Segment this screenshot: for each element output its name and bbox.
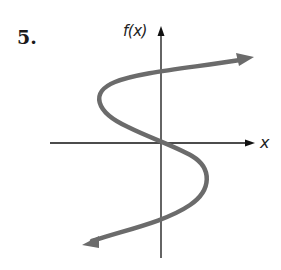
curve-arrow-lower-icon — [82, 236, 99, 248]
curve-arrow-upper-icon — [236, 53, 254, 66]
graph-figure: 5. f(x) x — [0, 0, 281, 270]
x-axis-arrow-icon — [245, 140, 255, 147]
y-axis-arrow-icon — [158, 26, 165, 36]
x-axis — [50, 140, 255, 147]
s-curve — [82, 53, 254, 248]
graph-canvas — [0, 0, 281, 270]
